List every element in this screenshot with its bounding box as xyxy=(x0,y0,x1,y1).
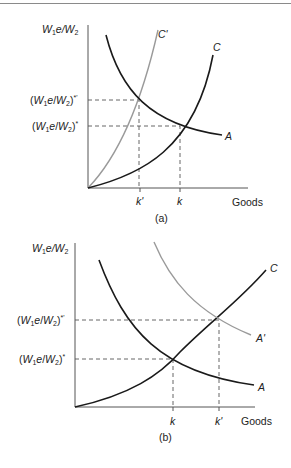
panel-a-x-axis-label: Goods xyxy=(232,196,263,208)
panel-b-tick-label-k: k xyxy=(170,415,176,427)
panel-b-curve-a xyxy=(99,260,254,385)
panel-b-level-low-label: (W1e/W2)* xyxy=(19,353,65,366)
panel-a: C' C A W1e/W2 (W1e/W2)*' (W1e/W2)* k' k … xyxy=(30,23,263,224)
panel-a-curve-c xyxy=(88,55,213,188)
panel-a-label-a: A xyxy=(224,130,232,142)
panel-a-tick-label-k: k xyxy=(177,195,183,207)
figure-canvas: C' C A W1e/W2 (W1e/W2)*' (W1e/W2)* k' k … xyxy=(0,0,291,468)
panel-b-x-axis-label: Goods xyxy=(241,415,272,427)
panel-b-curve-a-prime xyxy=(154,242,251,335)
panel-a-guide-high xyxy=(88,100,139,188)
panel-a-label-c-prime: C' xyxy=(158,28,169,40)
panel-b-label-a-prime: A' xyxy=(255,332,266,344)
panel-b-level-high-label: (W1e/W2)*' xyxy=(17,314,64,327)
panel-a-level-high-label: (W1e/W2)*' xyxy=(30,94,77,107)
panel-a-label-c: C xyxy=(213,41,221,53)
panel-b-y-axis-label: W1e/W2 xyxy=(32,242,69,255)
panel-b-label-a: A xyxy=(257,381,265,393)
panel-a-y-axis-label: W1e/W2 xyxy=(42,23,79,36)
panel-a-guide-low xyxy=(88,126,180,188)
panel-b-tick-label-k-prime: k' xyxy=(215,415,223,427)
panel-b-caption: (b) xyxy=(159,431,172,443)
panel-a-caption: (a) xyxy=(155,212,168,224)
panel-b-curve-c xyxy=(75,270,266,407)
panel-a-tick-label-k-prime: k' xyxy=(136,195,144,207)
panel-b-label-c: C xyxy=(270,262,278,274)
panel-b-guide-low xyxy=(75,359,173,407)
panel-a-level-low-label: (W1e/W2)* xyxy=(32,120,78,133)
panel-b: C A' A W1e/W2 (W1e/W2)*' (W1e/W2)* k k' … xyxy=(17,242,278,443)
panel-b-guide-high xyxy=(75,320,219,407)
